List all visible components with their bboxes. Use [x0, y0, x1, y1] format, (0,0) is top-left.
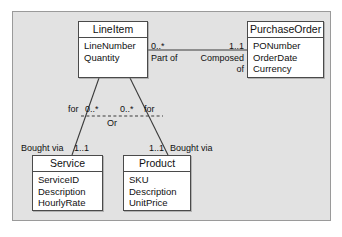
attribute-item: Quantity [84, 52, 143, 64]
class-box-service[interactable]: Service ServiceID Description HourlyRate [32, 155, 103, 211]
multiplicity-product: 1..1 [124, 143, 164, 153]
class-box-purchaseorder[interactable]: PurchaseOrder PONumber OrderDate Currenc… [247, 21, 324, 78]
attribute-item: Description [129, 186, 186, 198]
class-attributes-purchaseorder: PONumber OrderDate Currency [248, 38, 323, 77]
attribute-item: ServiceID [38, 174, 98, 186]
role-label-composed-of: of [190, 64, 244, 74]
attribute-item: HourlyRate [38, 197, 98, 209]
class-box-product[interactable]: Product SKU Description UnitPrice [123, 155, 191, 211]
uml-class-diagram: LineItem LineNumber Quantity PurchaseOrd… [0, 0, 342, 237]
role-label-bought-via-service: Bought via [21, 143, 64, 153]
attribute-item: Currency [253, 63, 319, 75]
class-title-lineitem: LineItem [79, 22, 147, 38]
attribute-item: LineNumber [84, 40, 143, 52]
multiplicity-lineitem-side: 0..* [151, 41, 165, 51]
class-title-purchaseorder: PurchaseOrder [248, 22, 323, 38]
class-attributes-lineitem: LineNumber Quantity [79, 38, 147, 65]
attribute-item: UnitPrice [129, 197, 186, 209]
multiplicity-purchaseorder-side: 1..1 [196, 41, 244, 51]
role-label-composed: Composed [190, 53, 244, 63]
class-title-product: Product [124, 156, 190, 172]
attribute-item: SKU [129, 174, 186, 186]
xor-constraint-label: Or [98, 118, 126, 128]
attribute-item: Description [38, 186, 98, 198]
role-label-part-of: Part of [151, 53, 178, 63]
class-title-service: Service [33, 156, 102, 172]
attribute-item: PONumber [253, 40, 319, 52]
multiplicity-service-branch: 0..* [85, 104, 99, 114]
class-attributes-service: ServiceID Description HourlyRate [33, 172, 102, 211]
class-box-lineitem[interactable]: LineItem LineNumber Quantity [78, 21, 148, 78]
class-attributes-product: SKU Description UnitPrice [124, 172, 190, 211]
role-label-for-product: for [144, 104, 155, 114]
role-label-for-service: for [68, 104, 79, 114]
multiplicity-product-branch: 0..* [120, 104, 134, 114]
multiplicity-service: 1..1 [74, 143, 89, 153]
role-label-bought-via-product: Bought via [170, 143, 213, 153]
attribute-item: OrderDate [253, 52, 319, 64]
